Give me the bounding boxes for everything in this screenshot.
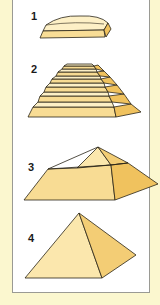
step-pyramid-shape: [28, 64, 141, 117]
true-pyramid-shape: [25, 213, 136, 278]
bent-pyramid-shape: [24, 147, 158, 200]
mastaba-shape: [40, 16, 111, 38]
pyramid-evolution-drawing: [0, 0, 160, 305]
